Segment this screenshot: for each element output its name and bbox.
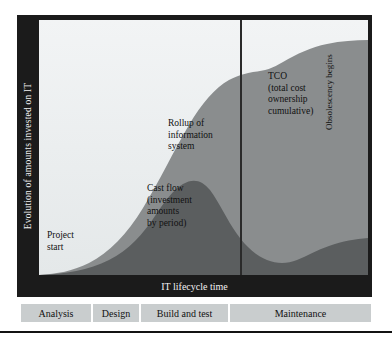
annotation-cash-flow: Cast flow (investment amounts by period) [147, 183, 192, 229]
bottom-divider-rule [0, 331, 392, 333]
lifecycle-phase-row: AnalysisDesignBuild and testMaintenance [20, 303, 372, 323]
y-axis-label-bar: Evolution of amounts invested on IT [17, 15, 39, 297]
annotation-obsolescency-begins: Obsolescency begins [324, 20, 336, 130]
x-axis-label-bar: IT lifecycle time [17, 275, 372, 297]
annotation-rollup-of-information-system: Rollup of information system [168, 118, 213, 153]
phase-cell[interactable]: Analysis [20, 303, 92, 323]
x-axis-label: IT lifecycle time [161, 281, 227, 292]
phase-cell[interactable]: Maintenance [229, 303, 372, 323]
y-axis-label: Evolution of amounts invested on IT [23, 83, 33, 230]
plot-area: Project start Rollup of information syst… [39, 20, 368, 275]
phase-cell[interactable]: Design [92, 303, 140, 323]
phase-cell[interactable]: Build and test [140, 303, 229, 323]
annotation-project-start: Project start [47, 230, 74, 253]
it-lifecycle-figure: Project start Rollup of information syst… [0, 0, 392, 339]
annotation-tco: TCO (total cost ownership cumulative) [268, 71, 313, 117]
